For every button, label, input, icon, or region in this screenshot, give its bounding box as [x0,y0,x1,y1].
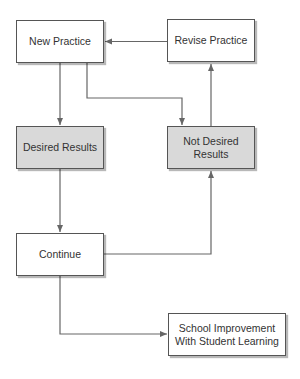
node-label: Not Desired Results [182,135,240,161]
node-label: Revise Practice [175,34,248,47]
node-label: Desired Results [23,141,97,154]
node-not-desired-results: Not Desired Results [167,126,255,169]
node-desired-results: Desired Results [16,126,104,169]
node-label: New Practice [29,35,91,48]
node-label: Continue [39,248,81,261]
edge-new-to-not-desired [87,63,182,125]
node-continue: Continue [16,233,104,276]
edge-continue-to-not-desired [103,171,211,254]
flowchart-canvas: New Practice Revise Practice Desired Res… [0,0,300,379]
node-revise-practice: Revise Practice [167,19,255,62]
edge-continue-to-school [60,276,167,334]
node-label: School Improvement With Student Learning [173,322,281,348]
node-school-improvement: School Improvement With Student Learning [168,313,286,356]
node-new-practice: New Practice [16,20,104,63]
